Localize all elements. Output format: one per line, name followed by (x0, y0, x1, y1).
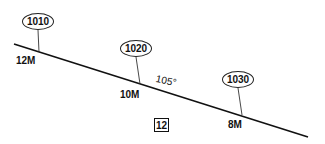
leader-1030 (238, 88, 242, 115)
boxed-number: 12 (154, 118, 169, 132)
callout-1020: 1020 (120, 40, 152, 57)
callout-label: 1020 (125, 43, 147, 54)
depth-label-8m: 8M (228, 120, 242, 130)
depth-label-12m: 12M (16, 56, 35, 66)
callout-1030: 1030 (222, 71, 254, 88)
leader-1010 (38, 30, 39, 52)
leader-1020 (136, 57, 140, 84)
callout-1010: 1010 (22, 13, 54, 30)
depth-label-10m: 10M (120, 90, 139, 100)
callout-label: 1010 (27, 16, 49, 27)
boxed-number-label: 12 (156, 120, 167, 131)
callout-label: 1030 (227, 74, 249, 85)
